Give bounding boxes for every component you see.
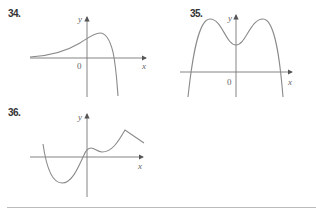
graph-36: y x	[30, 112, 144, 197]
y-axis-label: y	[77, 112, 82, 122]
y-axis-label: y	[227, 13, 232, 23]
x-axis-label: x	[141, 61, 146, 71]
curve-35	[188, 19, 283, 97]
graphs-canvas: y x 0 y x 0 y x	[0, 0, 316, 210]
origin-label: 0	[77, 61, 82, 71]
section-divider	[7, 207, 316, 208]
x-axis-label: x	[137, 161, 142, 171]
graph-34: y x 0	[30, 14, 146, 97]
origin-label: 0	[227, 77, 232, 87]
curve-34	[30, 33, 118, 96]
x-axis-label: x	[287, 77, 292, 87]
y-axis-label: y	[77, 14, 82, 24]
curve-36	[43, 130, 144, 183]
graph-35: y x 0	[180, 13, 292, 97]
